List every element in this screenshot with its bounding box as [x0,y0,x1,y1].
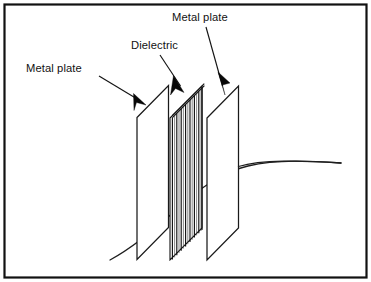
leader-line-dielectric [160,55,181,86]
capacitor-diagram-figure: Metal plate Dielectric Metal plate [0,0,371,282]
dielectric-stack [170,84,204,260]
arrow-head-icon-left [134,94,147,111]
arrow-head-icon-center [171,76,185,96]
callout-metal-plate-left: Metal plate [26,62,146,111]
callout-dielectric: Dielectric [131,39,184,95]
arrow-head-icon-right [218,72,230,95]
ground-surface-curve-front [239,161,342,166]
label-dielectric: Dielectric [131,39,178,51]
label-metal-plate-right: Metal plate [172,11,228,23]
metal-plate-right [207,86,239,260]
label-metal-plate-left: Metal plate [26,62,82,74]
callout-metal-plate-right: Metal plate [172,11,230,95]
metal-plate-left [137,86,169,260]
diagram-canvas: Metal plate Dielectric Metal plate [0,0,371,282]
